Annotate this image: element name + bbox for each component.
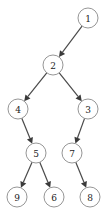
edge-5-6 [40,162,51,187]
arrowhead-icon [59,50,65,57]
node-label: 2 [50,61,56,71]
edge-line [40,162,48,182]
edge-line [23,162,32,182]
tree-node-2: 2 [43,55,63,75]
node-label: 6 [51,193,57,203]
tree-node-7: 7 [62,143,82,163]
tree-diagram: 124357968 [0,0,108,220]
edge-line [59,73,78,97]
arrowhead-icon [24,94,30,101]
edges-layer [20,26,86,188]
tree-node-3: 3 [78,99,98,119]
node-label: 7 [69,149,75,159]
tree-node-4: 4 [8,99,28,119]
node-label: 4 [15,105,21,115]
edge-7-8 [76,162,87,187]
edge-3-7 [74,118,84,143]
edge-1-2 [59,26,82,57]
node-label: 8 [87,193,93,203]
arrowhead-icon [76,94,82,101]
node-label: 5 [33,149,39,159]
edge-4-5 [22,118,33,143]
tree-node-6: 6 [44,187,64,207]
node-label: 3 [85,105,91,115]
edge-5-9 [20,162,32,188]
tree-node-8: 8 [80,187,100,207]
tree-node-1: 1 [78,8,98,28]
edge-line [28,73,47,97]
edge-2-4 [24,73,47,101]
edge-line [76,162,84,182]
edge-line [63,26,82,52]
node-label: 1 [85,14,91,24]
node-label: 9 [14,193,20,203]
edge-line [22,118,30,138]
tree-node-5: 5 [26,143,46,163]
edge-2-3 [59,73,82,101]
tree-node-9: 9 [7,187,27,207]
edge-line [77,118,84,138]
nodes-layer: 124357968 [7,8,100,207]
